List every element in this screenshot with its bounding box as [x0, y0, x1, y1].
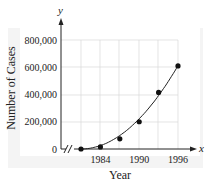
x-tick-labels: 198419901996 — [90, 154, 188, 165]
y-axis-title: Number of Cases — [4, 46, 18, 130]
data-point — [117, 136, 122, 141]
y-tick-label: 200,000 — [25, 116, 58, 127]
y-tick-label: 400,000 — [25, 89, 58, 100]
y-tick-label: 800,000 — [25, 35, 58, 46]
data-point — [175, 63, 180, 68]
data-point — [137, 119, 142, 124]
x-axis-var: x — [198, 142, 204, 154]
x-axis-title: Year — [109, 168, 131, 182]
x-tick-label: 1984 — [90, 154, 110, 165]
y-arrow-icon — [59, 18, 64, 25]
y-axis-var: y — [57, 4, 63, 16]
data-point — [156, 90, 161, 95]
y-tick-label: 600,000 — [25, 62, 58, 73]
data-point — [78, 146, 83, 151]
x-tick-label: 1996 — [168, 154, 188, 165]
chart: y x 0200,000400,000600,000800,000 198419… — [0, 0, 209, 188]
y-tick-label: 0 — [52, 144, 57, 155]
data-point — [98, 144, 103, 149]
x-tick-label: 1990 — [129, 154, 149, 165]
